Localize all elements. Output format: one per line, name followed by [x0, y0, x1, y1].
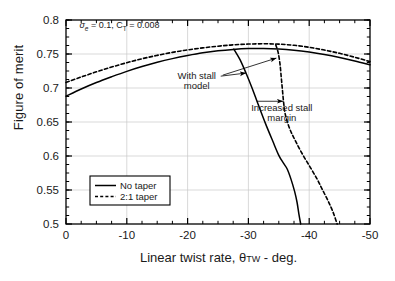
y-tick-label: 0.65 — [37, 116, 59, 128]
legend-label: No taper — [120, 180, 156, 191]
annotation-parameters: σe = 0.1, CT = 0.008 — [79, 20, 159, 31]
legend-label: 2:1 taper — [120, 191, 158, 202]
x-tick-label: -10 — [118, 229, 135, 241]
x-tick-label: -50 — [362, 229, 379, 241]
y-tick-label: 0.55 — [37, 184, 59, 196]
y-tick-label: 0.75 — [37, 48, 59, 60]
x-tick-label: -40 — [301, 229, 318, 241]
x-tick-label: -20 — [179, 229, 196, 241]
x-tick-label: 0 — [63, 229, 69, 241]
y-tick-label: 0.8 — [43, 14, 59, 26]
y-tick-label: 0.6 — [43, 150, 59, 162]
x-tick-label: -30 — [240, 229, 257, 241]
legend[interactable]: No taper2:1 taper — [90, 176, 170, 205]
y-tick-label: 0.7 — [43, 82, 59, 94]
figure-container: Figure of merit Linear twist rate, θTW -… — [0, 0, 395, 281]
chart-plot: 0-10-20-30-40-500.50.550.60.650.70.750.8… — [0, 0, 395, 281]
y-tick-label: 0.5 — [43, 218, 59, 230]
